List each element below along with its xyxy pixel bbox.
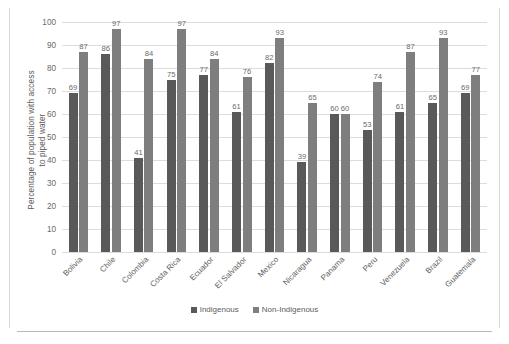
- y-axis-tick-label: 20: [47, 202, 56, 211]
- bar[interactable]: [406, 52, 415, 252]
- chart-figure: Percentage of population with access to …: [0, 0, 509, 344]
- bar-slot: 87: [406, 22, 415, 252]
- bar-slot: 65: [308, 22, 317, 252]
- y-axis-title-line-1: Percentage of population with access: [27, 70, 36, 209]
- legend-item-non-indigenous[interactable]: Non-Indigenous: [253, 305, 318, 314]
- bar-slot: 60: [341, 22, 350, 252]
- bar[interactable]: [373, 82, 382, 252]
- bar-slot: 76: [243, 22, 252, 252]
- frame-border-right: [499, 8, 500, 328]
- bar-group: 3965: [291, 22, 324, 252]
- bar-slot: 74: [373, 22, 382, 252]
- bar[interactable]: [308, 103, 317, 253]
- y-axis-tick-label: 0: [51, 248, 56, 257]
- legend-swatch-icon: [191, 307, 197, 313]
- bar[interactable]: [275, 38, 284, 252]
- y-axis-tick-label: 30: [47, 179, 56, 188]
- x-axis-tick-label-peru: Peru: [361, 255, 379, 273]
- bar[interactable]: [232, 112, 241, 252]
- bar-slot: 84: [144, 22, 153, 252]
- x-axis-tick-cell: Venezuela: [389, 254, 422, 304]
- bar-value-label: 69: [461, 83, 469, 92]
- bar[interactable]: [167, 80, 176, 253]
- bar[interactable]: [79, 52, 88, 252]
- bar[interactable]: [265, 63, 274, 252]
- bar-value-label: 93: [275, 28, 283, 37]
- bar-group: 6593: [422, 22, 455, 252]
- bar[interactable]: [69, 93, 78, 252]
- chart-legend: IndigenousNon-Indigenous: [0, 305, 509, 314]
- bar[interactable]: [428, 103, 437, 253]
- bar[interactable]: [439, 38, 448, 252]
- bar[interactable]: [395, 112, 404, 252]
- bar-value-label: 53: [363, 120, 371, 129]
- legend-item-indigenous[interactable]: Indigenous: [191, 305, 239, 314]
- x-axis-tick-cell: Nicaragua: [291, 254, 324, 304]
- bar[interactable]: [330, 114, 339, 252]
- y-axis-title: Percentage of population with access to …: [26, 25, 48, 255]
- bar[interactable]: [471, 75, 480, 252]
- y-axis-tick-label: 40: [47, 156, 56, 165]
- bar[interactable]: [461, 93, 470, 252]
- bar-group: 6187: [389, 22, 422, 252]
- bar-slot: 65: [428, 22, 437, 252]
- bar-group: 6060: [324, 22, 357, 252]
- y-axis-tick-label: 80: [47, 64, 56, 73]
- bar[interactable]: [199, 75, 208, 252]
- bar-slot: 41: [134, 22, 143, 252]
- bar[interactable]: [341, 114, 350, 252]
- bar-slot: 87: [79, 22, 88, 252]
- x-axis-tick-cell: Guatemala: [454, 254, 487, 304]
- bar-value-label: 97: [177, 19, 185, 28]
- bar-slot: 39: [297, 22, 306, 252]
- bar[interactable]: [134, 158, 143, 252]
- bar-group: 8697: [95, 22, 128, 252]
- bar-value-label: 77: [200, 65, 208, 74]
- bar-value-label: 61: [232, 102, 240, 111]
- bar-slot: 93: [439, 22, 448, 252]
- bar-group: 6977: [454, 22, 487, 252]
- bar-value-label: 84: [210, 49, 218, 58]
- bar[interactable]: [112, 29, 121, 252]
- bar[interactable]: [101, 54, 110, 252]
- legend-swatch-icon: [253, 307, 259, 313]
- x-axis-tick-labels: BoliviaChileColombiaCosta RicaEcuadorEl …: [62, 254, 487, 304]
- bar-value-label: 76: [243, 67, 251, 76]
- x-axis-tick-label-bolivia: Bolivia: [62, 255, 85, 278]
- bar[interactable]: [144, 59, 153, 252]
- bar-group: 8293: [258, 22, 291, 252]
- bar-value-label: 65: [428, 93, 436, 102]
- bar[interactable]: [177, 29, 186, 252]
- bar-slot: 86: [101, 22, 110, 252]
- bar-value-label: 87: [406, 42, 414, 51]
- x-axis-tick-label-ecuador: Ecuador: [188, 255, 215, 282]
- plot-area: 1009080706050403020100 69878697418475977…: [62, 22, 487, 252]
- x-axis-tick-label-mexico: Mexico: [257, 255, 281, 279]
- bar[interactable]: [297, 162, 306, 252]
- bar-group: 5374: [356, 22, 389, 252]
- y-axis-tick-label: 10: [47, 225, 56, 234]
- bar-slot: 77: [199, 22, 208, 252]
- bar-group: 4184: [127, 22, 160, 252]
- bar[interactable]: [363, 130, 372, 252]
- bar-slot: 61: [395, 22, 404, 252]
- bar-slot: 97: [112, 22, 121, 252]
- y-axis-tick-label: 60: [47, 110, 56, 119]
- x-axis-tick-label-panama: Panama: [319, 255, 346, 282]
- bar-value-label: 86: [102, 44, 110, 53]
- bar[interactable]: [243, 77, 252, 252]
- bar-slot: 75: [167, 22, 176, 252]
- bar-value-label: 60: [341, 104, 349, 113]
- x-axis-tick-label-chile: Chile: [98, 255, 117, 274]
- bar-slot: 82: [265, 22, 274, 252]
- bar[interactable]: [210, 59, 219, 252]
- bar-value-label: 39: [298, 152, 306, 161]
- bar-slot: 61: [232, 22, 241, 252]
- gridline: [62, 252, 487, 253]
- bar-value-label: 93: [439, 28, 447, 37]
- bar-value-label: 77: [472, 65, 480, 74]
- bar-slot: 69: [461, 22, 470, 252]
- bar-group: 6176: [225, 22, 258, 252]
- bar-value-label: 61: [396, 102, 404, 111]
- bar-slot: 60: [330, 22, 339, 252]
